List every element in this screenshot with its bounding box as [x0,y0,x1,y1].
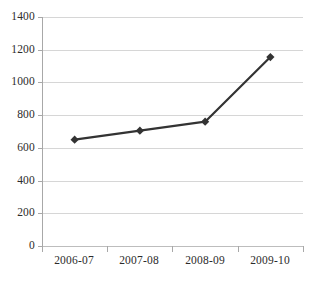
x-axis-tick [42,246,43,252]
gridline-800 [42,115,303,116]
y-axis-label-0: 0 [0,240,35,252]
y-axis-label-200: 200 [0,208,35,220]
x-axis-tick [107,246,108,252]
y-axis-tick [38,82,42,83]
data-point-marker [201,118,209,126]
gridline-1000 [42,82,303,83]
y-axis-label-1400: 1400 [0,11,35,23]
plot-area [0,0,312,283]
y-axis-tick [38,115,42,116]
data-point-marker [71,136,79,144]
y-axis-tick [38,148,42,149]
y-axis-tick [38,50,42,51]
series-markers [71,53,275,144]
gridline-1200 [42,50,303,51]
y-axis-label-1200: 1200 [0,44,35,56]
y-axis-tick [38,213,42,214]
y-axis-tick [38,17,42,18]
x-axis-label-2009-10: 2009-10 [230,255,310,267]
line-chart: 1400 1200 1000 800 600 400 200 0 2006-07… [0,0,312,283]
data-point-marker [266,53,274,61]
y-axis-label-1000: 1000 [0,77,35,89]
y-axis-label-400: 400 [0,175,35,187]
gridline-1400 [42,17,303,18]
y-axis-label-600: 600 [0,142,35,154]
x-axis-tick [303,246,304,252]
gridline-600 [42,148,303,149]
x-axis-tick [172,246,173,252]
gridline-400 [42,181,303,182]
data-point-marker [136,127,144,135]
y-axis-tick [38,181,42,182]
y-axis-line [42,17,43,246]
y-axis-label-800: 800 [0,109,35,121]
x-axis-tick [238,246,239,252]
series-line [75,57,271,140]
gridline-200 [42,213,303,214]
